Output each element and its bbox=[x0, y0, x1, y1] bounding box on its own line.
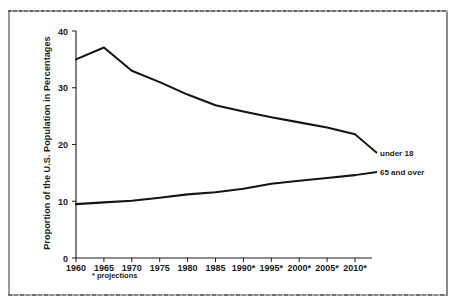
y-tick-label: 10 bbox=[58, 197, 68, 207]
chart-figure: Proportion of the U.S. Population in Per… bbox=[0, 0, 456, 306]
x-tick-label: 1960 bbox=[66, 263, 86, 273]
y-axis-tick-labels: 010203040 bbox=[58, 27, 68, 264]
x-tick-label: 1985 bbox=[205, 263, 225, 273]
y-tick-label: 40 bbox=[58, 27, 68, 37]
line-chart-plot: 010203040 1960196519701975198019851990*1… bbox=[0, 0, 456, 306]
x-tick-label: 1995* bbox=[260, 263, 284, 273]
x-tick-label: 1980 bbox=[178, 263, 198, 273]
chart-axes bbox=[76, 31, 372, 258]
series-leader-65-and-over bbox=[355, 172, 377, 175]
y-axis-ticks bbox=[72, 31, 76, 258]
series-label-under-18: under 18 bbox=[380, 149, 414, 158]
series-line-65-and-over bbox=[76, 175, 355, 204]
x-tick-label: 2005* bbox=[315, 263, 339, 273]
x-tick-label: 1975 bbox=[150, 263, 170, 273]
x-tick-label: 2000* bbox=[287, 263, 311, 273]
series-line-under-18 bbox=[76, 48, 355, 135]
x-tick-label: 1990* bbox=[232, 263, 256, 273]
x-tick-label: 2010* bbox=[343, 263, 367, 273]
x-axis-ticks bbox=[76, 258, 355, 262]
series-leader-under-18 bbox=[355, 134, 377, 153]
chart-footnote: * projections bbox=[92, 271, 137, 280]
series-label-65-and-over: 65 and over bbox=[380, 168, 424, 177]
y-tick-label: 0 bbox=[63, 254, 68, 264]
y-tick-label: 20 bbox=[58, 140, 68, 150]
y-tick-label: 30 bbox=[58, 83, 68, 93]
